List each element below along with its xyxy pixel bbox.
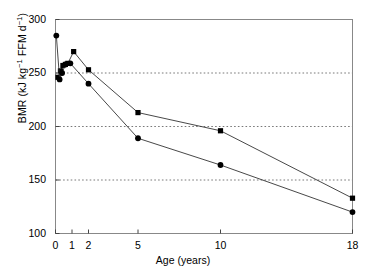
x-tick-label: 2 bbox=[78, 239, 100, 251]
x-tick-label: 10 bbox=[210, 239, 232, 251]
y-tick-label: 300 bbox=[12, 13, 46, 25]
y-tick-label: 250 bbox=[12, 66, 46, 78]
x-axis-label: Age (years) bbox=[0, 254, 366, 266]
plot-area bbox=[0, 0, 366, 276]
x-tick-label: 5 bbox=[127, 239, 149, 251]
bmr-age-chart: BMR (kJ kg−1 FFM d−1) Age (years) 100150… bbox=[0, 0, 366, 276]
x-tick-label: 18 bbox=[342, 239, 364, 251]
y-tick-label: 100 bbox=[12, 227, 46, 239]
y-tick-label: 150 bbox=[12, 173, 46, 185]
y-tick-label: 200 bbox=[12, 120, 46, 132]
y-axis-label-middle: FFM d bbox=[16, 25, 28, 59]
